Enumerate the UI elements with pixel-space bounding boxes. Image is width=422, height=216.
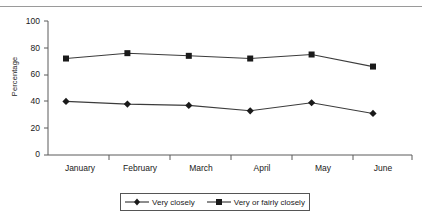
- x-tick-label-january: January: [52, 163, 108, 173]
- legend-label-very-or-fairly-closely: Very or fairly closely: [234, 198, 305, 207]
- x-tick-label-february: February: [112, 163, 168, 173]
- data-point: [309, 52, 315, 58]
- data-point: [124, 100, 131, 107]
- series-line-very-closely: [66, 101, 373, 113]
- legend-item-very-or-fairly-closely: Very or fairly closely: [207, 197, 305, 207]
- x-tick-label-march: March: [173, 163, 229, 173]
- data-point: [308, 99, 315, 106]
- data-point: [370, 64, 376, 70]
- data-point: [247, 107, 254, 114]
- data-point: [369, 110, 376, 117]
- line-chart: Percentage 100 80 60 40 20 0: [0, 10, 422, 190]
- series-markers-very-closely: [62, 98, 376, 117]
- data-point: [63, 56, 69, 62]
- y-axis-ticks: [44, 21, 48, 155]
- series-line-very-or-fairly-closely: [66, 53, 373, 66]
- diamond-marker-icon: [125, 197, 149, 207]
- data-point: [247, 56, 253, 62]
- x-tick-label-april: April: [234, 163, 290, 173]
- square-marker-icon: [207, 197, 231, 207]
- chart-screenshot: Percentage 100 80 60 40 20 0: [0, 0, 422, 216]
- x-axis-ticks: [109, 155, 412, 160]
- data-point: [186, 53, 192, 59]
- series-markers-very-or-fairly-closely: [63, 50, 376, 69]
- header-divider: [0, 6, 422, 7]
- x-tick-label-june: June: [355, 163, 411, 173]
- chart-legend: Very closely Very or fairly closely: [120, 193, 310, 211]
- legend-item-very-closely: Very closely: [125, 197, 195, 207]
- legend-label-very-closely: Very closely: [152, 198, 195, 207]
- x-tick-label-may: May: [295, 163, 351, 173]
- data-point: [62, 98, 69, 105]
- data-point: [124, 50, 130, 56]
- data-point: [185, 102, 192, 109]
